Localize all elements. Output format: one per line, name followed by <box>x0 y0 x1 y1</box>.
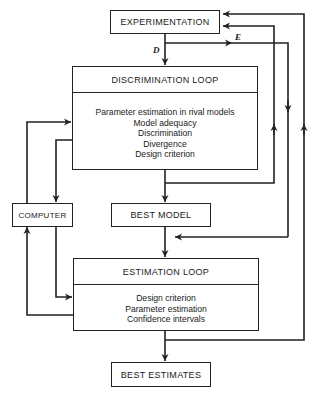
connector-lines <box>0 0 315 395</box>
best-model-label: BEST MODEL <box>131 210 192 220</box>
estimation-loop-items: Design criterion Parameter estimation Co… <box>74 285 258 325</box>
estimation-item: Confidence intervals <box>127 314 205 325</box>
discrimination-item: Model adequacy <box>133 118 196 129</box>
estimation-loop-title: ESTIMATION LOOP <box>74 259 258 285</box>
discrimination-item: Discrimination <box>138 128 192 139</box>
best-model-box: BEST MODEL <box>111 203 211 227</box>
estimation-item: Parameter estimation <box>125 304 207 315</box>
best-estimates-label: BEST ESTIMATES <box>121 370 201 380</box>
arrow-computer-to-discrimination <box>27 122 71 203</box>
computer-label: COMPUTER <box>18 211 66 220</box>
edge-label-d: D <box>153 45 160 55</box>
experimentation-label: EXPERIMENTATION <box>120 17 209 27</box>
arrow-computer-to-estimation <box>56 226 72 297</box>
arrow-discrimination-to-computer <box>56 140 72 202</box>
best-estimates-box: BEST ESTIMATES <box>111 362 211 387</box>
computer-box: COMPUTER <box>12 203 73 227</box>
experimentation-box: EXPERIMENTATION <box>110 10 220 34</box>
discrimination-item: Divergence <box>143 139 186 150</box>
discrimination-item: Design criterion <box>135 149 195 160</box>
arrow-estimation-to-computer <box>27 227 73 315</box>
edge-label-e: E <box>235 32 241 42</box>
discrimination-loop-title: DISCRIMINATION LOOP <box>73 67 257 93</box>
discrimination-item: Parameter estimation in rival models <box>96 107 235 118</box>
discrimination-loop-items: Parameter estimation in rival models Mod… <box>73 93 257 160</box>
estimation-loop-box: ESTIMATION LOOP Design criterion Paramet… <box>73 258 259 331</box>
discrimination-loop-box: DISCRIMINATION LOOP Parameter estimation… <box>72 66 258 170</box>
estimation-item: Design criterion <box>136 293 196 304</box>
